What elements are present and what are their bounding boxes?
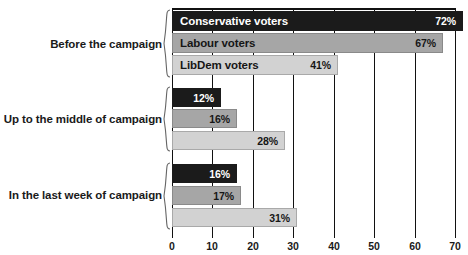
group-brace-3 — [161, 162, 172, 230]
bar-g2-conservative[interactable]: 12% — [172, 88, 221, 107]
axis-tick-label-70: 70 — [440, 240, 468, 252]
bar-value-g3-conservative: 16% — [209, 168, 236, 180]
axis-tick-label-50: 50 — [359, 240, 389, 252]
group-label-middle-campaign: Up to the middle of campaign — [4, 113, 162, 125]
group-label-last-week-campaign: In the last week of campaign — [9, 189, 162, 201]
tickmark-10 — [212, 232, 213, 238]
tickmark-0 — [172, 232, 173, 238]
tickmark-30 — [293, 232, 294, 238]
plot-area: 010203040506070 Conservative voters 72% … — [172, 8, 455, 232]
axis-tick-label-10: 10 — [197, 240, 227, 252]
axis-tick-label-40: 40 — [319, 240, 349, 252]
axis-tick-label-0: 0 — [157, 240, 187, 252]
tickmark-60 — [415, 232, 416, 238]
tickmark-50 — [374, 232, 375, 238]
group-brace-2 — [161, 86, 172, 152]
bar-value-g2-libdem: 28% — [257, 135, 284, 147]
bar-value-g2-labour: 16% — [209, 113, 236, 125]
plot-top-rule — [172, 8, 455, 10]
bar-value-g1-libdem: 41% — [310, 59, 337, 71]
bar-value-g3-libdem: 31% — [269, 212, 296, 224]
tickmark-70 — [455, 232, 456, 238]
bar-g1-libdem[interactable]: LibDem voters 41% — [172, 55, 338, 75]
bar-g1-conservative[interactable]: Conservative voters 72% — [172, 11, 463, 31]
bar-value-g1-conservative: 72% — [435, 15, 462, 27]
bar-series-label-labour: Labour voters — [180, 37, 255, 49]
tickmark-40 — [334, 232, 335, 238]
bar-series-label-conservative: Conservative voters — [180, 15, 288, 27]
bar-value-g1-labour: 67% — [415, 37, 442, 49]
bar-g1-labour[interactable]: Labour voters 67% — [172, 33, 443, 53]
axis-tick-label-20: 20 — [238, 240, 268, 252]
bar-chart: 010203040506070 Conservative voters 72% … — [0, 0, 468, 255]
bar-g3-libdem[interactable]: 31% — [172, 208, 297, 227]
bar-g2-labour[interactable]: 16% — [172, 109, 237, 128]
bar-value-g3-labour: 17% — [213, 190, 240, 202]
axis-tick-label-60: 60 — [400, 240, 430, 252]
axis-tick-label-30: 30 — [278, 240, 308, 252]
gridline-70 — [455, 8, 456, 232]
bar-g3-labour[interactable]: 17% — [172, 186, 241, 205]
bar-g2-libdem[interactable]: 28% — [172, 131, 285, 150]
bar-value-g2-conservative: 12% — [193, 92, 220, 104]
tickmark-20 — [253, 232, 254, 238]
group-brace-1 — [161, 9, 172, 78]
group-label-before-campaign: Before the campaign — [50, 38, 162, 50]
bar-series-label-libdem: LibDem voters — [180, 59, 259, 71]
bar-g3-conservative[interactable]: 16% — [172, 164, 237, 183]
